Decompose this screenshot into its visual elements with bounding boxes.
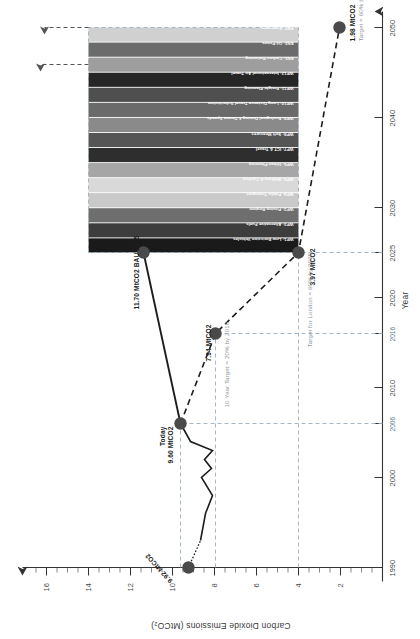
chart-svg bbox=[0, 0, 420, 639]
annotation-london-target: Target for London = 60% by 2025 bbox=[305, 252, 312, 347]
x-tick-2040: 2040 bbox=[388, 109, 397, 126]
annotation-bau-2025: 11.70 MtCO2 BAU 2025 bbox=[132, 235, 140, 309]
annotation-2050-target: Target = 60% by 2050 bbox=[356, 0, 363, 41]
y-tick-10: 10 bbox=[168, 583, 177, 591]
wedge-label-wp6: WP6: Urban Planning bbox=[248, 161, 293, 166]
series-historic bbox=[180, 423, 212, 567]
wedge-block bbox=[88, 27, 298, 252]
marker-2050 bbox=[333, 21, 345, 33]
wedge-label-en3: EN3: Synergies bbox=[261, 25, 293, 30]
wedge-label-wp12: WP12: International Air Travel bbox=[231, 70, 293, 75]
x-tick-1990: 1990 bbox=[388, 559, 397, 576]
y-tick-14: 14 bbox=[84, 583, 93, 591]
wedge-label-wp10: WP10: Long Distance Travel Substitution bbox=[207, 100, 293, 105]
wedge-bands bbox=[88, 27, 298, 252]
y-tick-12: 12 bbox=[126, 583, 135, 591]
y-tick-6: 6 bbox=[252, 583, 261, 587]
wedge-label-wp7: WP7: ICT & Travel bbox=[255, 146, 293, 151]
x-axis-title: Year bbox=[400, 291, 410, 309]
wedge-label-wp11: WP11: Freight Planning bbox=[244, 85, 293, 90]
x-tick-2030: 2030 bbox=[388, 199, 397, 216]
x-tick-2050: 2050 bbox=[388, 19, 397, 36]
wedge-label-wp3: WP3: Pricing Regime bbox=[249, 206, 293, 211]
wedge-label-wp1: WP1: Low Emission Vehicles bbox=[232, 236, 293, 241]
wedge-label-wp2: WP2: Alternative Fuels bbox=[245, 221, 293, 226]
y-tick-16: 16 bbox=[42, 583, 51, 591]
x-tick-2020: 2020 bbox=[388, 289, 397, 306]
x-tick-2006: 2006 bbox=[388, 416, 396, 431]
wedge-label-wp9: WP9: Ecological Driving & Deram Speeds bbox=[206, 115, 293, 120]
wedge-label-wp4: WP4: Public Transport bbox=[246, 191, 293, 196]
x-axis bbox=[374, 11, 382, 581]
y-axis-title: Carbon Dioxide Emissions (MtCO₂) bbox=[150, 619, 290, 629]
chart-canvas: 1990 2000 2006 2010 2016 2020 2025 2030 … bbox=[0, 0, 420, 639]
y-tick-4: 4 bbox=[294, 583, 303, 587]
x-tick-2000: 2000 bbox=[388, 469, 397, 486]
plot-area: 1990 2000 2006 2010 2016 2020 2025 2030 … bbox=[0, 0, 420, 639]
x-tick-2025: 2025 bbox=[388, 244, 397, 261]
series-bau bbox=[143, 252, 180, 423]
annotation-2050: 1.98 MtCO2 Target = 60% by 2050 bbox=[348, 0, 363, 41]
annotation-ten-year-target: 10 Year Target = 20% by 2016 bbox=[222, 321, 229, 407]
y-tick-8: 8 bbox=[210, 583, 219, 587]
annotation-today-value: 9.60 MtCO2 bbox=[166, 426, 174, 463]
marker-1990 bbox=[182, 561, 194, 573]
wedge-arrows bbox=[40, 27, 88, 64]
y-axis bbox=[22, 567, 382, 575]
annotation-today: Today 9.60 MtCO2 bbox=[158, 426, 173, 463]
x-tick-2010: 2010 bbox=[388, 379, 397, 396]
guide-lines bbox=[180, 252, 382, 567]
wedge-label-en2: EN2: Oil Prices bbox=[261, 40, 293, 45]
y-tick-2: 2 bbox=[336, 583, 345, 587]
annotation-today-title: Today bbox=[158, 426, 166, 463]
wedge-label-wp8: WP8: Soft Measures bbox=[251, 131, 293, 136]
annotation-2050-value: 1.98 MtCO2 bbox=[348, 0, 356, 41]
wedge-label-en1: EN1: Carbon Rationing bbox=[245, 55, 293, 60]
marker-2006 bbox=[174, 417, 186, 429]
annotation-2016-value: 7.94 MtCO2 bbox=[204, 324, 212, 361]
rotated-figure: 1990 2000 2006 2010 2016 2020 2025 2030 … bbox=[0, 0, 420, 639]
x-tick-2016: 2016 bbox=[388, 326, 396, 341]
wedge-label-wp5: WP5: Walking & Cycling bbox=[243, 176, 293, 181]
